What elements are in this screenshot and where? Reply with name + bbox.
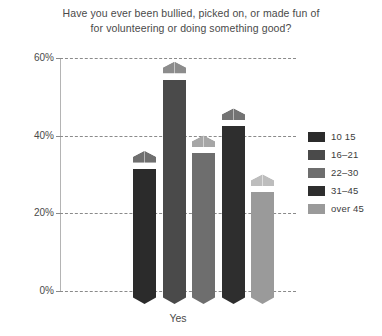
- legend-item-16-21[interactable]: 16–21: [308, 145, 382, 163]
- legend-label-10-15: 10 15: [331, 128, 356, 146]
- legend-swatch-10-15: [308, 132, 325, 142]
- bar-cap-facet-left: [222, 108, 234, 120]
- y-axis-labels: 60% 40% 20% 0%: [8, 58, 54, 291]
- y-tick-label-0: 0%: [10, 285, 54, 296]
- legend-swatch-over-45: [308, 204, 325, 214]
- legend-item-22-30[interactable]: 22–30: [308, 163, 382, 181]
- chart-legend: 10 15 16–21 22–30 31–45 over 45: [308, 127, 382, 217]
- bar-foot: [133, 291, 156, 304]
- bar-foot: [163, 291, 186, 304]
- bar-cap-facet-right: [234, 108, 246, 120]
- bar-body: [222, 126, 245, 291]
- bar-16-21[interactable]: [163, 74, 186, 291]
- bar-top-cap: [222, 108, 245, 120]
- bar-cap-facet-left: [133, 151, 145, 163]
- bar-10-15[interactable]: [133, 163, 156, 291]
- bar-cap-facet-left: [163, 62, 175, 74]
- bar-top-cap: [133, 151, 156, 163]
- chart-title-line-2: for volunteering or doing something good…: [62, 21, 320, 36]
- chart-title-line-1: Have you ever been bullied, picked on, o…: [63, 7, 320, 19]
- bars-layer: [60, 58, 296, 306]
- legend-label-over-45: over 45: [331, 200, 364, 218]
- y-tick-label-40: 40%: [10, 130, 54, 141]
- bar-cap-facet-right: [145, 151, 157, 163]
- bar-foot: [222, 291, 245, 304]
- x-axis-label: Yes: [60, 312, 296, 324]
- y-tick-label-20: 20%: [10, 207, 54, 218]
- bar-body: [251, 192, 274, 291]
- bar-body: [163, 80, 186, 291]
- bar-cap-facet-left: [251, 174, 263, 186]
- bar-cap-facet-right: [204, 135, 216, 147]
- bar-top-cap: [192, 135, 215, 147]
- y-tick-label-60: 60%: [10, 52, 54, 63]
- bar-chart: Have you ever been bullied, picked on, o…: [0, 0, 382, 336]
- legend-item-31-45[interactable]: 31–45: [308, 181, 382, 199]
- bar-cap-facet-right: [175, 62, 187, 74]
- bar-body: [192, 153, 215, 291]
- bar-22-30[interactable]: [192, 147, 215, 291]
- bar-foot: [251, 291, 274, 304]
- bar-over-45[interactable]: [251, 186, 274, 291]
- legend-item-over-45[interactable]: over 45: [308, 199, 382, 217]
- bar-cap-facet-right: [263, 174, 275, 186]
- legend-item-10-15[interactable]: 10 15: [308, 127, 382, 145]
- legend-swatch-22-30: [308, 168, 325, 178]
- legend-label-31-45: 31–45: [331, 182, 358, 200]
- bar-top-cap: [251, 174, 274, 186]
- bar-31-45[interactable]: [222, 120, 245, 291]
- bar-cap-facet-left: [192, 135, 204, 147]
- legend-swatch-16-21: [308, 150, 325, 160]
- legend-swatch-31-45: [308, 186, 325, 196]
- bar-foot: [192, 291, 215, 304]
- chart-title: Have you ever been bullied, picked on, o…: [62, 6, 320, 36]
- legend-label-22-30: 22–30: [331, 164, 358, 182]
- bar-top-cap: [163, 62, 186, 74]
- legend-label-16-21: 16–21: [331, 146, 358, 164]
- bar-body: [133, 169, 156, 291]
